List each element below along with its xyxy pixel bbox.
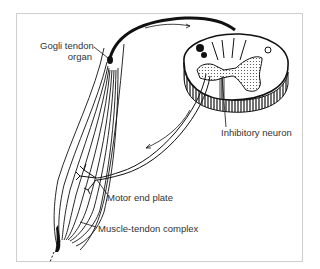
- label-motor-end-plate: Motor end plate: [107, 192, 173, 203]
- label-gogli-line2: organ: [40, 51, 92, 62]
- label-gogli-line1: Gogli tendon: [40, 40, 92, 51]
- label-gogli-tendon-organ: Gogli tendon organ: [40, 40, 92, 62]
- leader-gogli: [94, 47, 108, 58]
- label-inhibitory-neuron: Inhibitory neuron: [221, 127, 292, 138]
- spinal-cord-section: [184, 34, 288, 112]
- muscle-fibers: [54, 44, 124, 250]
- motor-end-plate-icon: [76, 164, 96, 194]
- label-muscle-tendon-complex: Muscle-tendon complex: [98, 223, 198, 234]
